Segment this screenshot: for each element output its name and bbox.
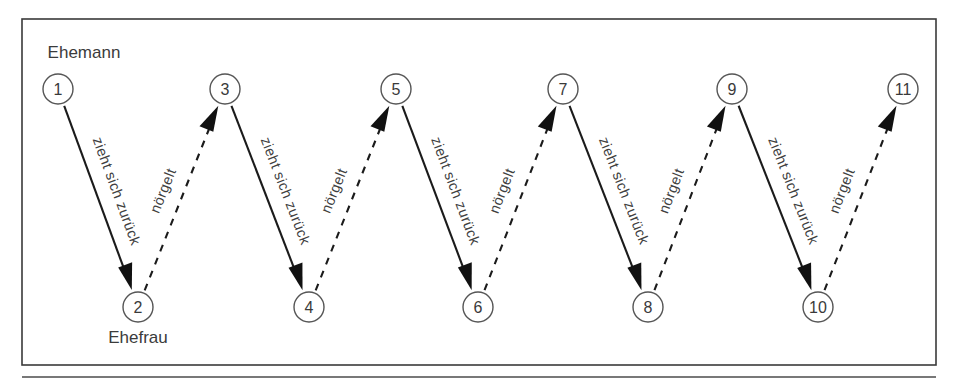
node-number-label: 4	[305, 299, 314, 316]
node-7[interactable]: 7	[548, 74, 578, 104]
node-number-label: 1	[54, 81, 63, 98]
node-number-label: 5	[392, 81, 401, 98]
node-number-label: 10	[809, 299, 827, 316]
node-3[interactable]: 3	[210, 74, 240, 104]
node-1[interactable]: 1	[43, 74, 73, 104]
node-9[interactable]: 9	[717, 74, 747, 104]
node-10[interactable]: 10	[803, 292, 833, 322]
node-number-label: 2	[134, 299, 143, 316]
diagram-root: zieht sich zurücknörgeltzieht sich zurüc…	[0, 0, 956, 390]
node-2[interactable]: 2	[123, 292, 153, 322]
node-4[interactable]: 4	[294, 292, 324, 322]
node-8[interactable]: 8	[633, 292, 663, 322]
node-number-label: 9	[728, 81, 737, 98]
node-number-label: 6	[474, 299, 483, 316]
node-11[interactable]: 11	[888, 74, 918, 104]
node-6[interactable]: 6	[463, 292, 493, 322]
node-5[interactable]: 5	[381, 74, 411, 104]
node-number-label: 8	[644, 299, 653, 316]
node-number-label: 11	[895, 81, 912, 98]
node-number-label: 3	[221, 81, 230, 98]
escalation-cycle-diagram: zieht sich zurücknörgeltzieht sich zurüc…	[0, 0, 956, 390]
role-label-husband: Ehemann	[48, 43, 121, 62]
role-label-wife: Ehefrau	[108, 328, 168, 347]
node-number-label: 7	[559, 81, 568, 98]
